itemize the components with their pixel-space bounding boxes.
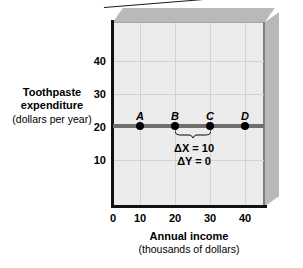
x-axis-title-text: Annual income	[113, 230, 265, 243]
x-tick-label-20: 20	[160, 212, 190, 224]
data-point-a	[136, 122, 144, 130]
delta-y-annotation: ΔY = 0	[148, 155, 240, 168]
data-point-d	[241, 122, 249, 130]
y-axis-units: (dollars per year)	[2, 113, 102, 126]
data-point-label-b: B	[163, 110, 187, 122]
x-axis-title: Annual income (thousands of dollars)	[113, 230, 265, 256]
y-axis-title-line2: expenditure	[2, 99, 102, 112]
block-top-edge	[104, 0, 279, 8]
delta-x-annotation: ΔX = 10	[148, 142, 240, 155]
y-axis-title: Toothpaste expenditure (dollars per year…	[2, 86, 102, 126]
x-tick-label-10: 10	[125, 212, 155, 224]
gridline-y-40	[114, 61, 264, 62]
y-tick-label-10: 10	[84, 155, 106, 166]
x-axis-line	[111, 205, 267, 208]
y-axis-line	[111, 20, 114, 208]
x-axis-units: (thousands of dollars)	[113, 243, 265, 256]
block-top-face	[113, 8, 275, 22]
data-point-b	[171, 122, 179, 130]
block-right-face	[265, 12, 279, 206]
panel-right-border	[263, 22, 265, 206]
chart-figure: 40 30 20 10 0 10 20 30 40 Toothpaste exp…	[0, 0, 303, 268]
panel-top-border	[113, 22, 265, 23]
y-axis-title-line1: Toothpaste	[2, 86, 102, 99]
data-point-label-a: A	[128, 110, 152, 122]
data-point-label-d: D	[233, 110, 257, 122]
data-point-c	[206, 122, 214, 130]
delta-annotations: ΔX = 10 ΔY = 0	[148, 142, 240, 168]
x-tick-label-0: 0	[98, 212, 128, 224]
x-tick-label-40: 40	[230, 212, 260, 224]
y-tick-label-40: 40	[84, 56, 106, 67]
gridline-y-30	[114, 94, 264, 95]
data-point-label-c: C	[198, 110, 222, 122]
x-tick-label-30: 30	[195, 212, 225, 224]
delta-x-brace-icon	[175, 130, 211, 138]
